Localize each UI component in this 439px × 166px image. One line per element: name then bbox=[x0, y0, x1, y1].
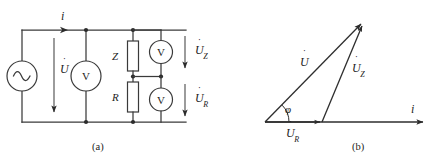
phi-label: φ bbox=[285, 103, 291, 115]
voltage-u-label: ˙U bbox=[60, 63, 69, 75]
phasor-uz-overdot: ˙ bbox=[355, 55, 358, 65]
circuit-group: V V V bbox=[7, 27, 186, 124]
node-top-vm bbox=[84, 28, 88, 32]
impedance-label: Z bbox=[112, 50, 118, 62]
figure-svg: V V V bbox=[0, 0, 439, 166]
ur-overdot: ˙ bbox=[198, 86, 201, 96]
caption-a: (a) bbox=[92, 141, 104, 152]
node-bottom-vm bbox=[84, 120, 88, 124]
uz-subscript: Z bbox=[203, 52, 207, 61]
voltage-r-label: ˙UR bbox=[195, 92, 209, 107]
figure-root: V V V bbox=[0, 0, 439, 166]
phasor-axis-label: i bbox=[411, 102, 414, 117]
voltmeter-z-glyph: V bbox=[157, 46, 165, 58]
phasor-ur-label: ˙UR bbox=[286, 126, 300, 142]
uz-overdot: ˙ bbox=[198, 38, 201, 48]
phasor-u-label: ˙U bbox=[300, 55, 309, 70]
phasor-ur-overdot: ˙ bbox=[289, 120, 292, 130]
phasor-u-overdot: ˙ bbox=[303, 49, 306, 59]
resistor-r-box bbox=[128, 82, 139, 112]
impedance-z-box bbox=[128, 41, 139, 71]
u-overdot: ˙ bbox=[63, 57, 66, 67]
voltage-z-label: ˙UZ bbox=[195, 44, 208, 59]
phasor-ur-subscript: R bbox=[294, 135, 299, 144]
phasor-u bbox=[265, 24, 361, 122]
current-label: i bbox=[61, 10, 64, 22]
voltmeter-r-glyph: V bbox=[157, 94, 165, 106]
caption-b: (b) bbox=[352, 141, 364, 152]
node-bottom-zr bbox=[131, 120, 135, 124]
phasor-uz-label: ˙UZ bbox=[352, 61, 365, 77]
ur-subscript: R bbox=[203, 100, 208, 109]
voltmeter-main-glyph: V bbox=[82, 70, 90, 82]
phasor-uz-subscript: Z bbox=[360, 70, 364, 79]
resistance-label: R bbox=[112, 91, 119, 103]
